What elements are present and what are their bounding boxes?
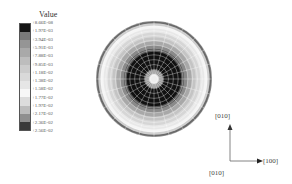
crystal-axes bbox=[0, 0, 292, 184]
axis-label-right: [100] bbox=[263, 157, 278, 165]
axis-label-up: [010] bbox=[215, 112, 230, 120]
arrow-up-icon bbox=[228, 124, 233, 130]
axis-label-origin: [010] bbox=[209, 169, 224, 177]
